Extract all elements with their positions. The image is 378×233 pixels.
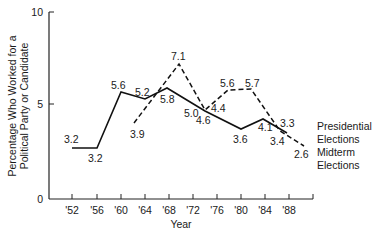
y-axis-label: Percentage Who Worked for a Political Pa… — [6, 35, 30, 176]
x-axis-label: Year — [170, 218, 192, 230]
data-label: 5.8 — [160, 93, 175, 105]
series-presidential-line — [72, 88, 287, 148]
svg-text:Presidential: Presidential — [317, 120, 372, 132]
x-tick-label: '64 — [138, 204, 152, 216]
data-label: 5.7 — [245, 77, 260, 89]
data-label: 4.4 — [211, 102, 226, 114]
y-tick-label-5: 5 — [37, 98, 43, 110]
x-tick-label: '72 — [186, 204, 200, 216]
data-label: 5.6 — [111, 79, 126, 91]
y-tick-label-0: 0 — [37, 193, 43, 205]
y-tick-label-10: 10 — [31, 6, 43, 18]
x-tick-label: '56 — [90, 204, 104, 216]
svg-text:Percentage Who Worked for a: Percentage Who Worked for a — [6, 35, 18, 176]
x-tick-labels: '52 '56 '60 '64 '68 '72 '76 '80 '84 '88 — [65, 204, 296, 216]
data-label: 7.1 — [171, 50, 186, 62]
x-tick-label: '76 — [210, 204, 224, 216]
data-label: 3.4 — [270, 135, 285, 147]
line-chart: 10 5 0 '52 '56 '60 '64 '68 '72 '76 '80 '… — [0, 0, 378, 233]
x-tick-label: '52 — [65, 204, 79, 216]
svg-text:Political Party or Candidate: Political Party or Candidate — [18, 43, 30, 170]
svg-text:Midterm: Midterm — [317, 146, 355, 158]
data-label: 3.6 — [233, 133, 248, 145]
data-label: 3.2 — [88, 152, 103, 164]
x-tick-label: '68 — [162, 204, 176, 216]
legend-midterm: Midterm Elections — [317, 146, 360, 171]
x-ticks — [72, 194, 289, 199]
x-tick-label: '84 — [258, 204, 272, 216]
svg-text:Elections: Elections — [317, 159, 360, 171]
data-label: 4.1 — [258, 121, 273, 133]
data-labels-presidential: 3.2 3.2 5.6 5.2 5.8 5.0 4.4 3.6 4.1 3.3 — [64, 79, 295, 164]
data-label: 2.6 — [294, 148, 309, 160]
x-tick-label: '80 — [234, 204, 248, 216]
data-label: 4.6 — [196, 114, 211, 126]
data-label: 3.2 — [64, 133, 79, 145]
data-label: 5.2 — [135, 86, 150, 98]
x-tick-label: '88 — [282, 204, 296, 216]
svg-text:Elections: Elections — [317, 133, 360, 145]
legend-presidential: Presidential Elections — [317, 120, 372, 145]
x-tick-label: '60 — [114, 204, 128, 216]
data-label: 3.3 — [280, 117, 295, 129]
data-label: 5.6 — [220, 77, 235, 89]
data-label: 3.9 — [130, 128, 145, 140]
